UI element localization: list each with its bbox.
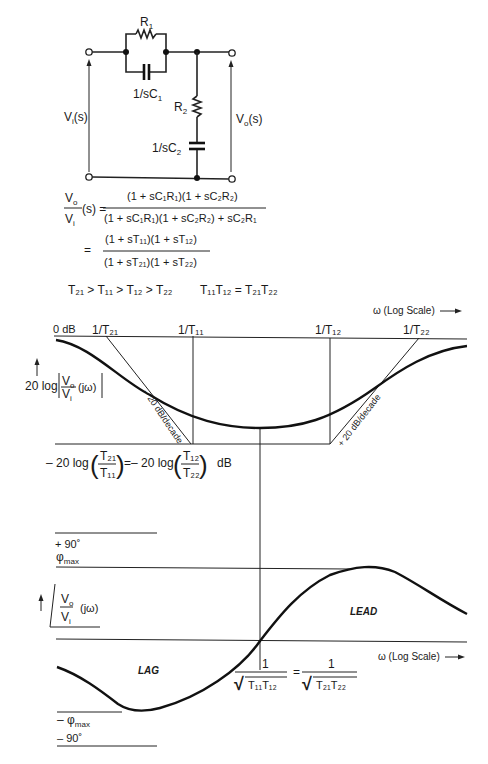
circuit-schematic: R1 1/sC1 R2 1/sC2 Vi(s) Vo(s) — [64, 15, 262, 182]
magnitude-ylabel-prefix: 20 log — [25, 379, 58, 393]
center-num-right: 1 — [328, 657, 335, 671]
phi-max-label: φmax — [56, 550, 79, 566]
eq-lhs-tail: (s) = — [82, 202, 106, 216]
plus-90-label: + 90˚ — [55, 538, 80, 550]
junction-dot — [123, 49, 129, 55]
lag-label: LAG — [138, 665, 159, 676]
label-r1: R1 — [140, 15, 154, 31]
phase-ylabel-den: Vi — [61, 610, 71, 626]
arrow-right-icon — [455, 309, 462, 314]
phase-bode-plot: + 90˚ φmax Vo Vi (jω) LEAD LAG ω (Log Sc… — [39, 533, 468, 746]
arrow-up-icon — [39, 594, 44, 601]
input-terminal-top — [86, 49, 92, 55]
omega-axis-label-bottom: ω (Log Scale) — [378, 651, 440, 662]
paren-open: ( — [90, 450, 99, 480]
arrow-up-icon — [229, 60, 234, 67]
lead-label: LEAD — [350, 606, 377, 617]
eq2-numerator: (1 + sT₁₁)(1 + sT₁₂) — [105, 233, 197, 245]
eq2-equals: = — [84, 243, 91, 257]
minus-90-label: – 90˚ — [57, 732, 82, 744]
arrow-up-icon — [87, 59, 92, 66]
label-vout: Vo(s) — [236, 112, 262, 128]
eq1-denominator: (1 + sC₁R₁)(1 + sC₂R₂) + sC₂R₁ — [104, 212, 257, 224]
label-r2: R2 — [174, 100, 188, 116]
center-den-left: T₁₁T₁₂ — [248, 679, 277, 691]
floor-gain-expression: – 20 log ( T₂₁ T₁₁ ) =– 20 log ( T₁₂ T₂₂… — [46, 449, 232, 480]
time-constant-inequality: T₂₁ > T₁₁ > T₁₂ > T₂₂ — [68, 283, 173, 297]
arrow-up-icon — [35, 358, 40, 365]
phase-ylabel-num: Vo — [61, 592, 74, 608]
eq-lhs-den: Vi — [65, 212, 75, 228]
center-num-left: 1 — [262, 657, 269, 671]
floor-t12: T₁₂ — [183, 449, 199, 463]
floor-prefix: – 20 log — [46, 456, 89, 470]
sqrt-icon: √ — [234, 674, 244, 694]
floor-mid: =– 20 log — [124, 456, 174, 470]
resistor-r1-icon — [136, 30, 156, 38]
arrow-right-icon — [458, 655, 465, 660]
omega-axis-label-top: ω (Log Scale) — [373, 305, 435, 316]
center-frequency-expression: 1 √ T₁₁T₁₂ = 1 √ T₂₁T₂₂ — [234, 657, 357, 694]
diagram-canvas: R1 1/sC1 R2 1/sC2 Vi(s) Vo(s) Vo Vi (s) … — [0, 0, 488, 764]
sqrt-icon: √ — [302, 674, 312, 694]
breakpoint-2-t11: 1/T₁₁ — [178, 323, 203, 337]
time-constant-product: T₁₁T₁₂ = T₂₁T₂₂ — [200, 283, 278, 297]
magnitude-ylabel-tail: (jω) — [78, 381, 96, 393]
center-den-right: T₂₁T₂₂ — [316, 679, 346, 691]
breakpoint-4-t22: 1/T₂₂ — [403, 323, 430, 337]
transfer-function-equations: Vo Vi (s) = (1 + sC₁R₁)(1 + sC₂R₂) (1 + … — [64, 190, 278, 297]
floor-t11: T₁₁ — [100, 466, 115, 480]
minus-phi-max-label: – φmax — [57, 713, 90, 729]
floor-t21: T₂₁ — [100, 449, 116, 463]
phase-ylabel-tail: (jω) — [80, 602, 98, 614]
center-equals: = — [293, 665, 300, 679]
resistor-r2-icon — [193, 96, 201, 117]
output-terminal-bottom — [229, 176, 235, 182]
input-terminal-bottom — [86, 174, 92, 180]
eq2-denominator: (1 + sT₂₁)(1 + sT₂₂) — [104, 256, 197, 268]
paren-close: ) — [199, 450, 208, 480]
paren-open: ( — [173, 450, 182, 480]
label-vin: Vi(s) — [64, 110, 88, 126]
junction-dot — [194, 175, 200, 181]
eq1-numerator: (1 + sC₁R₁)(1 + sC₂R₂) — [127, 190, 238, 202]
floor-unit: dB — [217, 456, 232, 470]
output-terminal-top — [229, 50, 235, 56]
label-c2: 1/sC2 — [152, 141, 182, 157]
slope-left-label: – 20 dB/decade — [141, 388, 185, 446]
breakpoint-3-t12: 1/T₁₂ — [315, 323, 341, 337]
slope-right-label: + 20 dB/decade — [336, 392, 383, 448]
zero-db-label: 0 dB — [53, 323, 76, 335]
junction-dot — [163, 49, 169, 55]
floor-t22: T₂₂ — [183, 466, 200, 480]
breakpoint-1-t21: 1/T₂₁ — [92, 323, 118, 337]
magnitude-curve — [56, 340, 467, 428]
eq-lhs-num: Vo — [65, 191, 78, 207]
magnitude-bode-plot: ω (Log Scale) 0 dB 1/T₂₁ 1/T₁₁ 1/T₁₂ 1/T… — [25, 305, 467, 670]
label-c1: 1/sC1 — [133, 87, 163, 103]
